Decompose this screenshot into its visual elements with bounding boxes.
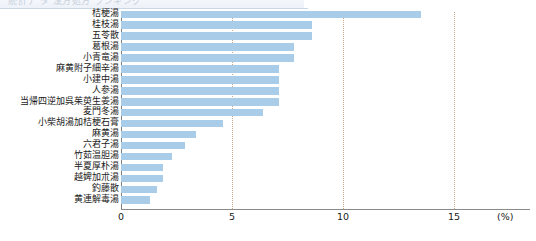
bar-category-label: 麦門冬湯: [83, 106, 119, 117]
x-tick-label-10: 10: [337, 211, 349, 222]
bar: [121, 186, 157, 194]
bar-category-label: 人参湯: [92, 85, 119, 96]
cut-off-header-strip: 統計デ タ 漢方処方 ランキング: [0, 0, 536, 9]
x-axis-line: [121, 209, 530, 210]
bar-row: 五苓散: [0, 31, 536, 42]
bar-category-label: 小柴胡湯加桔梗石膏: [38, 117, 119, 128]
header-text: 統計デ タ 漢方処方 ランキング: [8, 0, 308, 8]
bar: [121, 87, 279, 95]
bar-row: 小建中湯: [0, 75, 536, 86]
bar-category-label: 麻黄附子細辛湯: [56, 63, 119, 74]
bar: [121, 98, 279, 106]
bar: [121, 76, 279, 84]
bar-category-label: 葛根湯: [92, 41, 119, 52]
bar-chart: 桔梗湯桂枝湯五苓散葛根湯小青竜湯麻黄附子細辛湯小建中湯人参湯当帰四逆加呉茱萸生姜…: [0, 9, 536, 241]
bar-category-label: 釣藤散: [92, 183, 119, 194]
bar-row: 黄連解毒湯: [0, 195, 536, 206]
bar: [121, 164, 163, 172]
bar-category-label: 越婢加朮湯: [74, 172, 119, 183]
bar-category-label: 六君子湯: [83, 139, 119, 150]
bar: [121, 109, 263, 117]
bar-row: 桂枝湯: [0, 20, 536, 31]
bar: [121, 131, 196, 139]
bar-category-label: 竹茹温胆湯: [74, 150, 119, 161]
bar: [121, 11, 421, 19]
x-tick-label-0: 0: [118, 211, 124, 222]
bar-category-label: 麻黄湯: [92, 128, 119, 139]
bar-rows: 桔梗湯桂枝湯五苓散葛根湯小青竜湯麻黄附子細辛湯小建中湯人参湯当帰四逆加呉茱萸生姜…: [0, 9, 536, 206]
bar-row: 葛根湯: [0, 42, 536, 53]
x-tick-label-5: 5: [229, 211, 235, 222]
bar-row: 麻黄附子細辛湯: [0, 64, 536, 75]
bar-category-label: 小建中湯: [83, 74, 119, 85]
bar-row: 当帰四逆加呉茱萸生姜湯: [0, 97, 536, 108]
bar-category-label: 小青竜湯: [83, 52, 119, 63]
bar-row: 越婢加朮湯: [0, 173, 536, 184]
x-axis-unit-label: (%): [497, 211, 513, 222]
bar-category-label: 五苓散: [92, 30, 119, 41]
bar: [121, 43, 294, 51]
x-tick-label-15: 15: [448, 211, 460, 222]
bar-category-label: 桔梗湯: [92, 8, 119, 19]
bar-category-label: 半夏厚朴湯: [74, 161, 119, 172]
bar: [121, 54, 294, 62]
bar-category-label: 桂枝湯: [92, 19, 119, 30]
bar: [121, 65, 279, 73]
bar: [121, 21, 312, 29]
bar: [121, 153, 172, 161]
bar: [121, 32, 312, 40]
bar-row: 麻黄湯: [0, 129, 536, 140]
x-axis-ticks: (%) 051015: [0, 211, 536, 227]
bar: [121, 142, 185, 150]
bar: [121, 120, 223, 128]
bar-row: 小柴胡湯加桔梗石膏: [0, 118, 536, 129]
bar-category-label: 当帰四逆加呉茱萸生姜湯: [20, 96, 119, 107]
bar: [121, 196, 150, 204]
bar-row: 桔梗湯: [0, 9, 536, 20]
bar-category-label: 黄連解毒湯: [74, 194, 119, 205]
bar: [121, 175, 163, 183]
